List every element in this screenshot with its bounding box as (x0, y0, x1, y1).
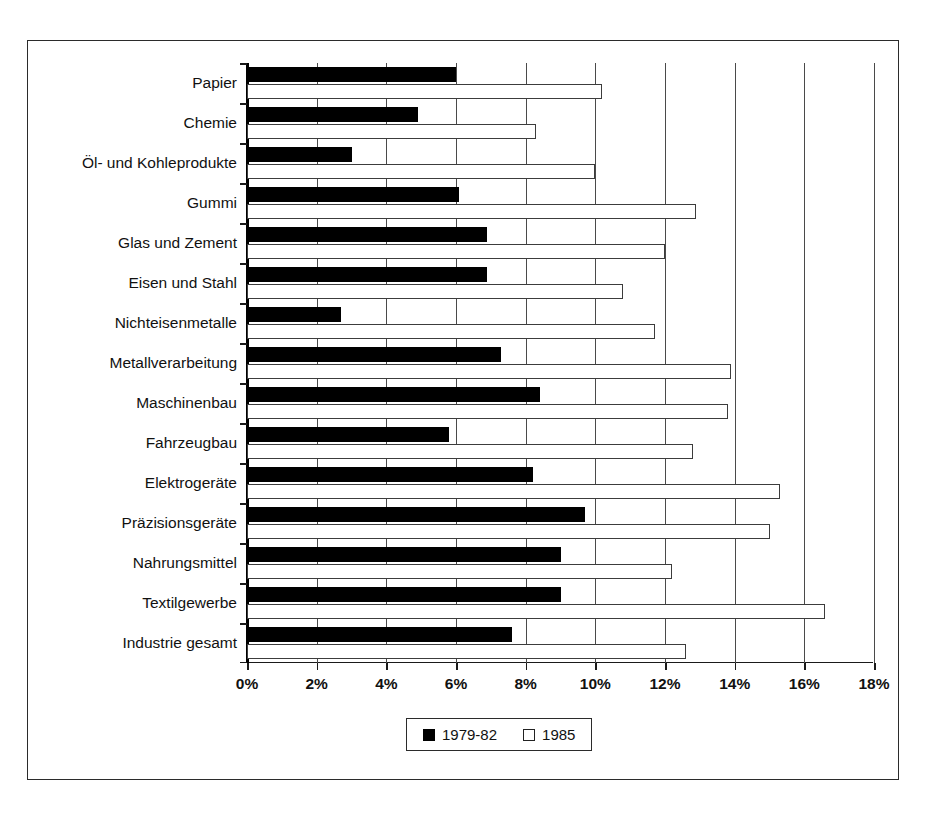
y-axis-tick (240, 183, 247, 185)
x-axis-tick-label: 10% (580, 675, 611, 693)
bar-1985 (247, 244, 665, 259)
category-label: Gummi (187, 195, 237, 211)
y-axis-tick (240, 503, 247, 505)
x-axis-tick (735, 663, 737, 670)
chart-row: Textilgewerbe (247, 583, 873, 623)
category-label: Elektrogeräte (145, 475, 237, 491)
chart-row: Öl- und Kohleprodukte (247, 143, 873, 183)
bar-1985 (247, 564, 672, 579)
x-axis-tick-label: 18% (858, 675, 889, 693)
category-label: Metallverarbeitung (109, 355, 237, 371)
x-axis-tick (804, 663, 806, 670)
chart-legend: 1979-82 1985 (406, 718, 592, 751)
bar-1979-82 (247, 507, 585, 522)
bar-1979-82 (247, 587, 561, 602)
bar-1985 (247, 484, 780, 499)
bar-1979-82 (247, 147, 352, 162)
y-axis-tick (240, 143, 247, 145)
chart-row: Industrie gesamt (247, 623, 873, 663)
bar-1979-82 (247, 467, 533, 482)
bar-1985 (247, 164, 595, 179)
category-label: Fahrzeugbau (146, 435, 237, 451)
chart-frame: 0%2%4%6%8%10%12%14%16%18%PapierChemieÖl-… (27, 40, 899, 780)
category-label: Glas und Zement (118, 235, 237, 251)
chart-row: Chemie (247, 103, 873, 143)
bar-1985 (247, 204, 696, 219)
x-axis-tick (317, 663, 319, 670)
bar-1985 (247, 644, 686, 659)
x-axis-tick (386, 663, 388, 670)
bar-1979-82 (247, 387, 540, 402)
bar-1979-82 (247, 547, 561, 562)
y-axis-tick (240, 383, 247, 385)
x-axis-tick-label: 2% (305, 675, 327, 693)
category-label: Papier (192, 75, 237, 91)
chart-row: Metallverarbeitung (247, 343, 873, 383)
category-label: Öl- und Kohleprodukte (82, 155, 237, 171)
chart-row: Glas und Zement (247, 223, 873, 263)
bar-1985 (247, 324, 655, 339)
y-axis-tick (240, 103, 247, 105)
chart-row: Elektrogeräte (247, 463, 873, 503)
bar-1979-82 (247, 187, 459, 202)
category-label: Chemie (184, 115, 237, 131)
y-axis-tick (240, 463, 247, 465)
y-axis-tick (240, 263, 247, 265)
x-axis-tick (526, 663, 528, 670)
chart-row: Präzisionsgeräte (247, 503, 873, 543)
x-axis-tick-label: 16% (789, 675, 820, 693)
bar-1979-82 (247, 67, 456, 82)
bar-1985 (247, 404, 728, 419)
category-label: Nichteisenmetalle (115, 315, 237, 331)
y-axis-tick (240, 423, 247, 425)
y-axis-tick (240, 63, 247, 65)
x-axis-tick-label: 0% (236, 675, 258, 693)
chart-row: Eisen und Stahl (247, 263, 873, 303)
chart-row: Papier (247, 63, 873, 103)
x-axis-tick (665, 663, 667, 670)
bar-1985 (247, 524, 770, 539)
chart-row: Fahrzeugbau (247, 423, 873, 463)
y-axis-tick (240, 662, 247, 664)
legend-swatch-filled-icon (423, 729, 435, 741)
chart-row: Nichteisenmetalle (247, 303, 873, 343)
category-label: Präzisionsgeräte (122, 515, 237, 531)
legend-label-1979-82: 1979-82 (442, 726, 497, 743)
bar-1979-82 (247, 627, 512, 642)
x-axis-tick-label: 8% (514, 675, 536, 693)
x-axis-tick-label: 14% (719, 675, 750, 693)
legend-label-1985: 1985 (542, 726, 575, 743)
y-axis-tick (240, 583, 247, 585)
y-axis-tick (240, 303, 247, 305)
bar-1985 (247, 124, 536, 139)
x-axis-tick (456, 663, 458, 670)
bar-1985 (247, 364, 731, 379)
x-axis-tick (595, 663, 597, 670)
category-label: Nahrungsmittel (133, 555, 237, 571)
bar-1979-82 (247, 427, 449, 442)
category-label: Textilgewerbe (142, 595, 237, 611)
category-label: Industrie gesamt (122, 635, 237, 651)
y-axis-tick (240, 543, 247, 545)
x-axis-tick-label: 6% (445, 675, 467, 693)
x-axis-tick (874, 663, 876, 670)
x-axis-tick (247, 663, 249, 670)
bar-1979-82 (247, 227, 487, 242)
y-axis-tick (240, 343, 247, 345)
legend-item-1979-82: 1979-82 (423, 726, 497, 743)
category-label: Eisen und Stahl (128, 275, 237, 291)
legend-swatch-hollow-icon (523, 729, 535, 741)
bar-1985 (247, 444, 693, 459)
legend-item-1985: 1985 (523, 726, 575, 743)
gridline (874, 63, 875, 663)
y-axis-tick (240, 623, 247, 625)
bar-1979-82 (247, 107, 418, 122)
bar-1985 (247, 604, 825, 619)
category-label: Maschinenbau (136, 395, 237, 411)
bar-1979-82 (247, 347, 501, 362)
chart-row: Maschinenbau (247, 383, 873, 423)
bar-1979-82 (247, 267, 487, 282)
chart-row: Nahrungsmittel (247, 543, 873, 583)
y-axis-tick (240, 223, 247, 225)
x-axis-tick-label: 12% (649, 675, 680, 693)
